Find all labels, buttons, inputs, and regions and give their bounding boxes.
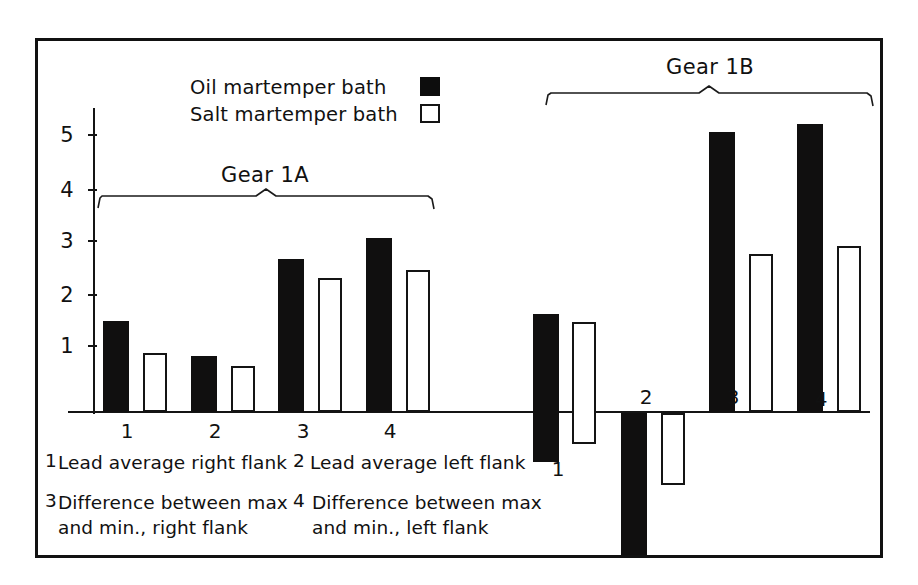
chart-frame-border (35, 38, 883, 558)
chart-figure: 5 4 3 2 1 Oil martemper bath Salt martem… (0, 0, 918, 585)
